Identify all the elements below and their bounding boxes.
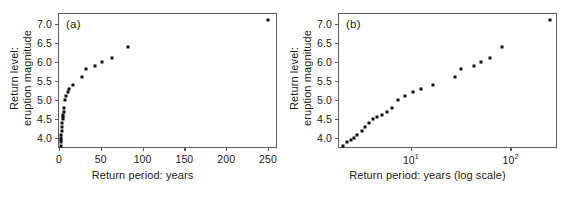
data-point — [391, 106, 394, 109]
data-point — [404, 95, 407, 98]
data-point — [60, 125, 63, 128]
data-point — [84, 68, 87, 71]
y-axis-tick — [335, 138, 339, 139]
return-level-figure: Return level: eruption magnitude 4.04.55… — [0, 0, 570, 199]
x-axis-tick-label: 102 — [503, 153, 519, 166]
y-axis-tick-label: 4.0 — [37, 132, 52, 144]
data-point — [63, 106, 66, 109]
x-axis-tick — [184, 147, 185, 151]
data-point — [110, 56, 113, 59]
data-point — [385, 110, 388, 113]
data-point — [100, 60, 103, 63]
data-point — [367, 121, 370, 124]
y-axis-tick-label: 5.5 — [317, 75, 332, 87]
data-point — [501, 45, 504, 48]
y-axis-tick — [55, 43, 59, 44]
y-axis-tick — [55, 24, 59, 25]
data-point — [71, 83, 74, 86]
x-axis-tick — [59, 147, 60, 151]
data-point — [380, 114, 383, 117]
y-axis-tick-label: 5.5 — [37, 75, 52, 87]
data-point — [60, 129, 63, 132]
x-axis-tick-label: 101 — [403, 153, 419, 166]
panel-a-y-axis-title-line1: Return level: — [8, 46, 20, 109]
data-point — [489, 56, 492, 59]
y-axis-tick-label: 6.5 — [37, 37, 52, 49]
data-point — [549, 18, 552, 21]
data-point — [419, 87, 422, 90]
data-point — [356, 134, 359, 137]
data-point — [480, 60, 483, 63]
x-axis-tick — [411, 147, 412, 151]
data-point — [353, 137, 356, 140]
y-axis-tick — [335, 24, 339, 25]
x-axis-tick-label: 100 — [134, 153, 152, 165]
panel-a-plot-area: 4.04.55.05.56.06.57.0050100150200250 — [59, 14, 276, 147]
y-axis-tick — [335, 119, 339, 120]
data-point — [342, 144, 345, 147]
y-axis-tick-label: 5.0 — [317, 94, 332, 106]
data-point — [360, 129, 363, 132]
panel-b-plot-area: 4.04.55.05.56.06.57.0101102 — [339, 14, 556, 147]
x-axis-tick — [268, 147, 269, 151]
data-point — [62, 114, 65, 117]
data-point — [346, 141, 349, 144]
data-point — [364, 125, 367, 128]
y-axis-tick — [335, 81, 339, 82]
data-point — [472, 64, 475, 67]
panel-a: Return level: eruption magnitude 4.04.55… — [0, 0, 285, 199]
data-point — [61, 121, 64, 124]
data-point — [372, 118, 375, 121]
x-axis-tick-label: 0 — [56, 153, 62, 165]
y-axis-tick-label: 7.0 — [37, 18, 52, 30]
y-axis-tick-label: 6.5 — [317, 37, 332, 49]
panel-a-plot-frame: 4.04.55.05.56.06.57.0050100150200250 — [58, 13, 277, 148]
panel-b-y-axis-title: Return level: eruption magnitude — [288, 30, 313, 126]
data-point — [266, 18, 269, 21]
panel-b-label: (b) — [346, 18, 361, 30]
x-axis-tick — [143, 147, 144, 151]
y-axis-tick-label: 4.5 — [37, 113, 52, 125]
data-point — [454, 76, 457, 79]
data-point — [60, 134, 63, 137]
x-axis-tick-label: 150 — [175, 153, 193, 165]
y-axis-tick — [335, 43, 339, 44]
panel-a-label: (a) — [66, 18, 81, 30]
x-axis-tick — [101, 147, 102, 151]
data-point — [66, 91, 69, 94]
y-axis-tick-label: 4.5 — [317, 113, 332, 125]
data-point — [376, 116, 379, 119]
y-axis-tick — [335, 100, 339, 101]
x-axis-tick — [510, 147, 511, 151]
y-axis-tick-label: 6.0 — [317, 56, 332, 68]
x-axis-tick-label: 200 — [217, 153, 235, 165]
data-point — [59, 144, 62, 147]
data-point — [411, 91, 414, 94]
panel-a-y-axis-title: Return level: eruption magnitude — [8, 30, 33, 126]
data-point — [65, 95, 68, 98]
data-point — [64, 99, 67, 102]
data-point — [127, 45, 130, 48]
x-axis-tick — [226, 147, 227, 151]
x-axis-tick-label: 250 — [259, 153, 277, 165]
data-point — [62, 110, 65, 113]
data-point — [397, 99, 400, 102]
y-axis-tick-label: 6.0 — [37, 56, 52, 68]
panel-b-y-axis-title-line2: eruption magnitude — [301, 30, 314, 126]
panel-b: Return level: eruption magnitude 4.04.55… — [285, 0, 570, 199]
panel-a-y-axis-title-line2: eruption magnitude — [21, 30, 34, 126]
data-point — [60, 137, 63, 140]
data-point — [81, 76, 84, 79]
y-axis-tick — [55, 62, 59, 63]
y-axis-tick-label: 4.0 — [317, 132, 332, 144]
y-axis-tick — [335, 62, 339, 63]
panel-b-x-axis-title: Return period: years (log scale) — [285, 169, 570, 181]
data-point — [460, 68, 463, 71]
panel-a-x-axis-title: Return period: years — [0, 169, 285, 181]
y-axis-tick — [55, 81, 59, 82]
data-point — [93, 64, 96, 67]
x-axis-tick-label: 50 — [95, 153, 107, 165]
y-axis-tick — [55, 138, 59, 139]
y-axis-tick-label: 7.0 — [317, 18, 332, 30]
panel-b-plot-frame: 4.04.55.05.56.06.57.0101102 — [338, 13, 557, 148]
